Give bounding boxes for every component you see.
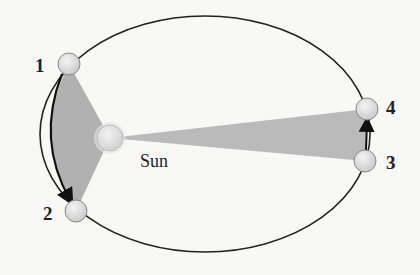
sun-label: Sun (140, 151, 168, 171)
orbit-diagram-svg: 1 2 3 4 Sun (0, 0, 420, 275)
planet-position-4 (356, 98, 378, 120)
planet-position-2 (65, 200, 87, 222)
label-position-1: 1 (35, 55, 45, 76)
planet-position-1 (58, 53, 80, 75)
planet-position-3 (354, 150, 376, 172)
label-position-3: 3 (386, 152, 396, 173)
label-position-2: 2 (43, 203, 53, 224)
sun-body (97, 125, 123, 151)
motion-arrow-3-4 (366, 122, 367, 150)
kepler-diagram: 1 2 3 4 Sun (0, 0, 420, 275)
label-position-4: 4 (386, 97, 396, 118)
